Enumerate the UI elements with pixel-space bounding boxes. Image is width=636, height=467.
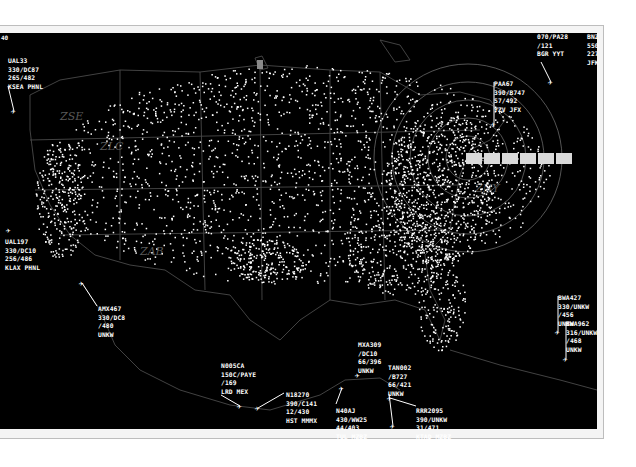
svg-text:✈: ✈ [555, 328, 560, 337]
flight-tag-bwa962[interactable]: BWA962316/UNKW/468UNKW [566, 320, 597, 354]
tag-line: 330/UNKW [558, 303, 589, 312]
svg-text:✈: ✈ [255, 404, 260, 413]
svg-text:✈: ✈ [339, 384, 344, 393]
tag-line: KLAX PHNL [5, 264, 40, 273]
svg-text:ZLC: ZLC [99, 140, 124, 153]
tag-line: /DC10 [358, 350, 381, 359]
svg-text:✈: ✈ [237, 402, 242, 411]
corner-label: 40 [1, 34, 8, 41]
flight-tag-paa67[interactable]: PAA67390/B74757/492YZV JFX [494, 80, 525, 114]
tag-line: /456 [558, 311, 589, 320]
tag-line: 265/482 [8, 74, 43, 83]
tag-line: 070/PA28 [537, 33, 568, 42]
tag-line: 330/DC10 [5, 247, 40, 256]
tag-line: BGR YYT [537, 50, 568, 59]
svg-text:✈: ✈ [390, 422, 395, 429]
tag-line: 12/430 [286, 408, 317, 417]
tag-line: UNKW [358, 367, 381, 376]
tag-line: AMX467 [98, 305, 125, 314]
tag-line: 57/492 [494, 97, 525, 106]
tag-line: 390/C141 [286, 400, 317, 409]
svg-text:✈: ✈ [491, 120, 496, 129]
tag-line: KSEA PHNL [8, 83, 43, 92]
tag-line: UNKW [98, 331, 125, 340]
flight-tag-edge_ne[interactable]: BNZ550227JFK [587, 33, 599, 67]
tag-line: 550 [587, 42, 599, 51]
tag-line: 31/471 [416, 424, 451, 433]
tag-line: /468 [566, 337, 597, 346]
tag-line: PAA67 [494, 80, 525, 89]
flight-tag-n005ca[interactable]: N005CA150C/PAYE/169LRD MEX [221, 362, 256, 396]
tag-line: 66/396 [358, 358, 381, 367]
tag-line: 256/486 [5, 255, 40, 264]
tag-line: KTAD MZBZ [416, 433, 451, 442]
fix-strip [466, 153, 572, 164]
tag-line: 330/DC87 [8, 66, 43, 75]
flight-tag-ual197[interactable]: UAL197330/DC10256/486KLAX PHNL [5, 238, 40, 272]
tag-line: N18270 [286, 391, 317, 400]
tag-line: 44/403 [336, 424, 367, 433]
svg-text:✈: ✈ [79, 279, 84, 288]
tag-line: BWA962 [566, 320, 597, 329]
tag-line: 316/UNKW [566, 329, 597, 338]
svg-text:✈: ✈ [548, 78, 553, 87]
tag-line: TAN002 [388, 364, 411, 373]
svg-text:ZAB: ZAB [139, 245, 164, 258]
flight-tag-mxa309[interactable]: MXA309/DC1066/396UNKW [358, 341, 381, 375]
tag-line: LRD MEX [221, 388, 256, 397]
flight-tag-clipped_ne[interactable]: 070/PA28/121BGR YYT [537, 33, 568, 59]
weather-cell [257, 60, 263, 69]
tag-line: UAL33 [8, 57, 43, 66]
tag-line: N005CA [221, 362, 256, 371]
tag-line: 390/B747 [494, 89, 525, 98]
flight-tag-tan002[interactable]: TAN002/B72766/421UNKW [388, 364, 411, 398]
tag-line: UNKW [388, 390, 411, 399]
flight-tag-amx467[interactable]: AMX467330/DC8/480UNKW [98, 305, 125, 339]
tag-line: /B727 [388, 373, 411, 382]
tag-line: JFK [587, 59, 599, 68]
tag-line: YZV JFX [494, 106, 525, 115]
flight-tag-rrr2095[interactable]: RRR2095390/UNKW31/471KTAD MZBZ [416, 407, 451, 441]
flight-tag-n40aj[interactable]: N40AJ430/WW2544/403TUL MZBZ [336, 407, 367, 441]
tag-line: TUL MZBZ [336, 433, 367, 442]
svg-text:✈: ✈ [11, 107, 16, 116]
tag-line: 66/421 [388, 381, 411, 390]
svg-text:✈: ✈ [6, 226, 11, 235]
tag-line: HST MMMX [286, 417, 317, 426]
tag-line: BNZ [587, 33, 599, 42]
tag-line: /121 [537, 42, 568, 51]
svg-text:ZSE: ZSE [59, 110, 83, 123]
tag-line: 430/WW25 [336, 416, 367, 425]
svg-text:✈: ✈ [563, 355, 568, 364]
tag-line: 150C/PAYE [221, 371, 256, 380]
flight-tag-ual33[interactable]: UAL33330/DC87265/482KSEA PHNL [8, 57, 43, 91]
tag-line: N40AJ [336, 407, 367, 416]
tag-line: /480 [98, 322, 125, 331]
tag-line: /169 [221, 379, 256, 388]
tag-line: 330/DC8 [98, 314, 125, 323]
tag-line: BWA427 [558, 294, 589, 303]
tag-line: RRR2095 [416, 407, 451, 416]
flight-tag-n18270[interactable]: N18270390/C14112/430HST MMMX [286, 391, 317, 425]
tag-line: UNKW [566, 346, 597, 355]
tag-line: UAL197 [5, 238, 40, 247]
tag-line: 227 [587, 50, 599, 59]
tag-line: 390/UNKW [416, 416, 451, 425]
tag-line: MXA309 [358, 341, 381, 350]
